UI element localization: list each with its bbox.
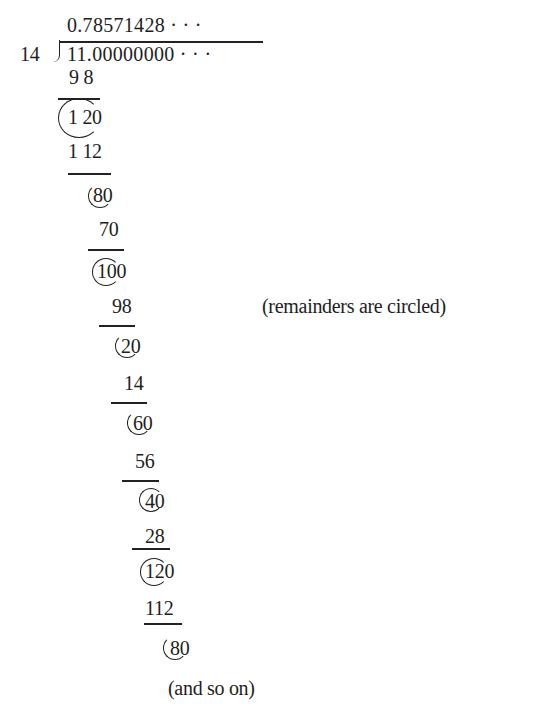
product-3: 70	[99, 218, 118, 240]
subtraction-rule-6	[122, 480, 159, 482]
continuation-note: (and so on)	[168, 677, 255, 699]
remainder-circle-8	[163, 636, 187, 660]
remainder-circle-6	[139, 488, 163, 512]
product-4: 98	[112, 295, 131, 317]
subtraction-rule-7	[132, 548, 170, 550]
division-bracket	[53, 40, 60, 62]
product-6: 56	[135, 450, 154, 472]
product-8: 112	[145, 597, 173, 619]
remainder-circle-1	[58, 98, 100, 138]
quotient: 0.78571428 · · ·	[67, 14, 202, 36]
product-5: 14	[124, 372, 143, 394]
remainder-circle-4	[115, 334, 139, 358]
subtraction-rule-2	[68, 173, 111, 175]
subtraction-rule-3	[88, 249, 124, 251]
subtraction-rule-5	[111, 402, 147, 404]
remainder-circle-5	[127, 411, 151, 435]
product-1: 9 8	[69, 66, 93, 88]
product-2: 1 12	[68, 140, 102, 162]
dividend: 11.00000000 · · ·	[67, 43, 211, 65]
remainders-note: (remainders are circled)	[262, 295, 446, 317]
remainder-circle-3	[92, 258, 120, 286]
subtraction-rule-4	[99, 325, 135, 327]
remainder-circle-2	[88, 184, 112, 208]
divisor: 14	[20, 43, 39, 65]
subtraction-rule-8	[144, 623, 182, 625]
product-7: 28	[145, 525, 164, 547]
remainder-circle-7	[140, 558, 168, 586]
